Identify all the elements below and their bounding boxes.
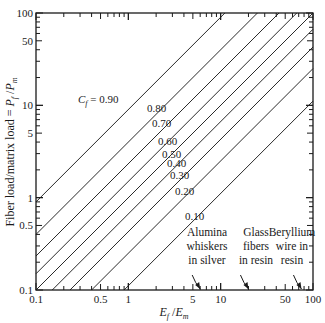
y-tick-label: 0.5 — [19, 219, 33, 231]
x-tick-label: 5 — [190, 293, 196, 305]
curve-label: 0.60 — [158, 135, 178, 147]
annotation-text: in resin — [239, 254, 273, 266]
y-tick-label: 0.1 — [19, 284, 33, 296]
annotation-text: Alumina — [187, 226, 227, 238]
curve-cf-080 — [36, 13, 257, 234]
x-tick-label: 50 — [280, 293, 292, 305]
x-tick-label: 100 — [305, 293, 322, 305]
annotation-text: Beryllium — [269, 226, 316, 239]
y-tick-label: 50 — [22, 35, 34, 47]
curve-label: Cf = 0.90 — [78, 93, 119, 108]
labels-group: 0.10.51510501000.10.5151050100Cf = 0.900… — [17, 7, 322, 305]
y-tick-label: 100 — [17, 7, 34, 19]
x-tick-label: 1 — [126, 293, 132, 305]
curve-label: 0.20 — [175, 185, 195, 197]
x-axis-title: Ef /Em — [158, 305, 188, 321]
curve-label: 0.10 — [185, 210, 205, 222]
y-tick-label: 10 — [22, 99, 34, 111]
curve-cf-090 — [36, 13, 225, 202]
annotation-text: fibers — [243, 240, 270, 252]
curve-label: 0.40 — [167, 157, 187, 169]
y-axis-title: Fiber load/matrix load = Pf /Pm — [3, 77, 19, 226]
curve-label: 0.30 — [170, 169, 190, 181]
y-tick-label: 5 — [28, 127, 34, 139]
annotation-text: in silver — [188, 254, 226, 266]
annotation-text: Glass — [243, 226, 269, 238]
x-tick-label: 0.5 — [94, 293, 108, 305]
y-tick-label: 1 — [28, 192, 34, 204]
annotation-text: resin — [281, 254, 304, 266]
chart: 0.10.51510501000.10.5151050100Cf = 0.900… — [0, 0, 325, 323]
x-tick-label: 10 — [215, 293, 227, 305]
curve-label: 0.70 — [152, 117, 172, 129]
annotation-text: whiskers — [187, 240, 228, 252]
annotation-text: wire in — [276, 240, 309, 252]
curve-label: 0.80 — [147, 102, 167, 114]
